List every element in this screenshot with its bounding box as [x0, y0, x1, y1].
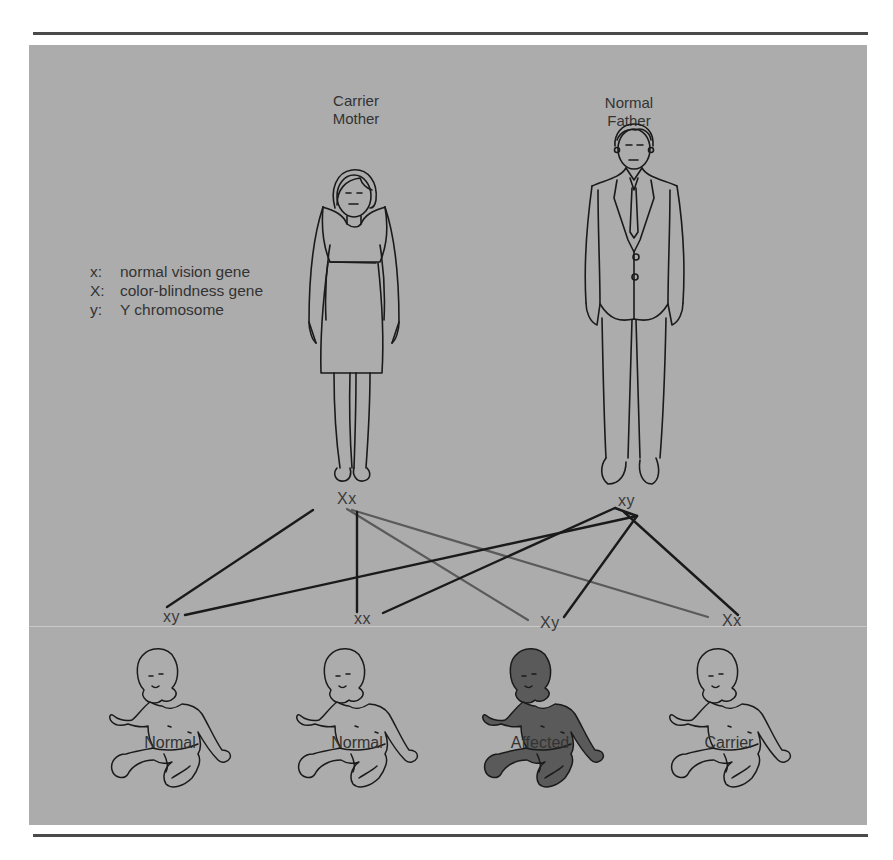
pedigree-artwork	[0, 0, 893, 860]
child-2-genotype: xx	[354, 610, 371, 628]
baby-4-icon	[670, 649, 791, 787]
baby-3-affected-icon	[483, 649, 604, 787]
child-4-genotype: Xx	[722, 612, 742, 630]
child-3-label: Affected	[470, 734, 610, 752]
child-1-genotype: xy	[163, 608, 180, 626]
father-figure-icon	[585, 124, 684, 484]
baby-2-icon	[297, 649, 418, 787]
child-4-label: Carrier	[659, 734, 799, 752]
mother-genotype: Xx	[337, 490, 357, 508]
child-3-genotype: Xy	[540, 614, 560, 632]
bottom-rule	[33, 834, 868, 837]
mother-figure-icon	[309, 170, 399, 481]
child-1-label: Normal	[100, 734, 240, 752]
inheritance-lines	[167, 508, 738, 620]
baby-1-icon	[110, 649, 231, 787]
father-genotype: xy	[618, 492, 635, 510]
child-2-label: Normal	[287, 734, 427, 752]
